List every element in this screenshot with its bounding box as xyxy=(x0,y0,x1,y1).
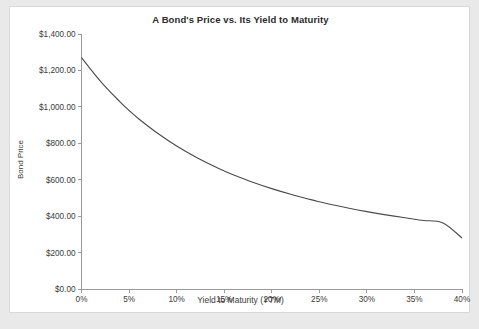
y-tick-label: $800.00 xyxy=(46,139,76,148)
y-tick-label: $0.00 xyxy=(55,285,76,294)
x-axis-title-plain: Yield to Maturity ( xyxy=(197,295,263,305)
y-tick-label: $1,400.00 xyxy=(39,30,76,39)
y-tick-label-group: $0.00$200.00$400.00$600.00$800.00$1,000.… xyxy=(39,30,76,294)
y-tick-label: $1,000.00 xyxy=(39,103,76,112)
y-tick-label: $400.00 xyxy=(46,212,76,221)
bond-price-curve xyxy=(82,58,463,238)
chart-page: A Bond's Price vs. Its Yield to Maturity… xyxy=(0,0,479,329)
x-tick-mark-group xyxy=(82,289,463,293)
x-axis-title-italic: YTM xyxy=(263,295,281,305)
y-tick-label: $600.00 xyxy=(46,176,76,185)
chart-card: A Bond's Price vs. Its Yield to Maturity… xyxy=(9,6,470,313)
y-tick-label: $1,200.00 xyxy=(39,66,76,75)
y-tick-label: $200.00 xyxy=(46,249,76,258)
x-axis-title-tail: ) xyxy=(281,295,284,305)
x-axis-title: Yield to Maturity (YTM) xyxy=(10,295,471,305)
plot-area: $0.00$200.00$400.00$600.00$800.00$1,000.… xyxy=(10,7,471,314)
y-tick-mark-group xyxy=(78,34,82,289)
